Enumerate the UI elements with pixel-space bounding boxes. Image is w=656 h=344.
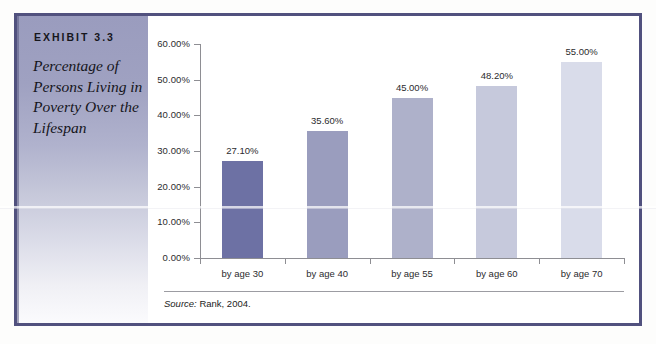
category-label: by age 70	[540, 268, 624, 279]
source-prefix: Source:	[164, 298, 197, 309]
x-axis-line	[200, 258, 625, 259]
bar	[307, 131, 348, 258]
caption-panel-edge	[17, 16, 19, 323]
bar	[561, 62, 602, 258]
bar-value-label: 35.60%	[287, 115, 367, 126]
bar	[222, 161, 263, 258]
exhibit-caption-text: Percentage of Persons Living in Poverty …	[33, 56, 143, 138]
category-label: by age 30	[200, 268, 284, 279]
source-divider	[164, 291, 624, 292]
x-axis-tick	[454, 258, 455, 264]
chart-panel: 0.00%10.00%20.00%30.00%40.00%50.00%60.00…	[150, 16, 639, 323]
x-axis-tick	[539, 258, 540, 264]
y-axis-tick-label: 30.00%	[138, 145, 190, 156]
x-axis-tick	[624, 258, 625, 264]
exhibit-figure: EXHIBIT 3.3 Percentage of Persons Living…	[0, 0, 656, 344]
source-note: Source: Rank, 2004.	[164, 298, 251, 309]
y-axis-tick-label: 10.00%	[138, 216, 190, 227]
bar-value-label: 45.00%	[372, 82, 452, 93]
category-label: by age 40	[285, 268, 369, 279]
source-text: Rank, 2004.	[199, 298, 250, 309]
category-label: by age 55	[370, 268, 454, 279]
x-axis-tick	[200, 258, 201, 264]
x-axis-tick	[370, 258, 371, 264]
bar	[392, 98, 433, 259]
exhibit-number-label: EXHIBIT 3.3	[34, 31, 115, 43]
bar-value-label: 48.20%	[457, 70, 537, 81]
bar-value-label: 27.10%	[202, 145, 282, 156]
y-axis-tick-label: 40.00%	[138, 109, 190, 120]
y-axis-tick-label: 0.00%	[138, 252, 190, 263]
y-axis-tick-label: 50.00%	[138, 74, 190, 85]
bar-value-label: 55.00%	[542, 46, 622, 57]
category-label: by age 60	[455, 268, 539, 279]
bar	[476, 86, 517, 258]
y-axis-tick-label: 20.00%	[138, 181, 190, 192]
x-axis-tick	[285, 258, 286, 264]
y-axis-tick-label: 60.00%	[138, 38, 190, 49]
